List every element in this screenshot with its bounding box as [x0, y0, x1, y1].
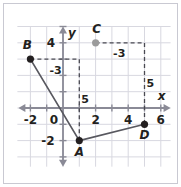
y-axis-label: y — [68, 26, 77, 40]
dashed-leg-label: 5 — [81, 93, 89, 106]
origin-label: 0 — [50, 113, 58, 127]
plot-point-D[interactable] — [141, 121, 148, 128]
y-axis-tick-label: 4 — [47, 36, 55, 50]
dashed-leg-label: -3 — [50, 64, 62, 77]
plot-point-B[interactable] — [27, 56, 34, 63]
x-axis-tick-label: 6 — [157, 113, 165, 127]
dashed-leg-label: 5 — [146, 77, 154, 90]
x-axis-label: x — [157, 89, 167, 103]
x-axis-tick-label: 2 — [91, 113, 99, 127]
x-axis-tick-label: -2 — [24, 113, 37, 127]
point-label-C: C — [92, 22, 101, 36]
y-axis-tick-label: -2 — [41, 134, 54, 148]
point-label-A: A — [74, 145, 84, 159]
point-label-D: D — [140, 128, 150, 142]
x-axis-tick-label: 4 — [124, 113, 132, 127]
dashed-leg-label: -3 — [113, 47, 125, 60]
point-label-B: B — [23, 38, 32, 52]
coordinate-plane-figure: -224604-2xy-35-35ABCD — [0, 0, 181, 187]
coordinate-plane-svg: -224604-2xy-35-35ABCD — [0, 0, 181, 187]
plot-point-C[interactable] — [92, 39, 99, 46]
plot-point-A[interactable] — [76, 137, 83, 144]
